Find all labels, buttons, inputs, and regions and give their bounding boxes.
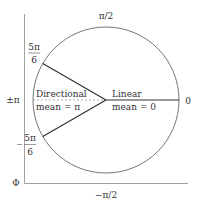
- label-upper-5pi-over-6: 5π 6: [28, 42, 40, 65]
- label-neg-pi-over-2: −π/2: [95, 190, 117, 200]
- label-zero: 0: [185, 96, 191, 106]
- lower-fraction-numerator: 5π: [24, 133, 36, 143]
- directional-label: Directional: [36, 89, 87, 99]
- linear-mean-value: mean = 0: [112, 102, 156, 112]
- label-plus-minus-pi: ±π: [6, 95, 20, 105]
- directional-mean-value: mean = π: [36, 102, 80, 112]
- upper-fraction-denominator: 6: [31, 55, 37, 65]
- label-lower-neg-5pi-over-6: 5π 6: [17, 133, 36, 157]
- upper-fraction-numerator: 5π: [28, 42, 40, 52]
- axis-label-phi: Φ: [12, 178, 19, 188]
- linear-label: Linear: [112, 89, 142, 99]
- circular-mean-diagram: π/2 −π/2 0 ±π 5π 6 5π 6 Φ Directional me…: [0, 0, 199, 204]
- lower-fraction-denominator: 6: [27, 147, 33, 157]
- label-pi-over-2: π/2: [99, 11, 114, 21]
